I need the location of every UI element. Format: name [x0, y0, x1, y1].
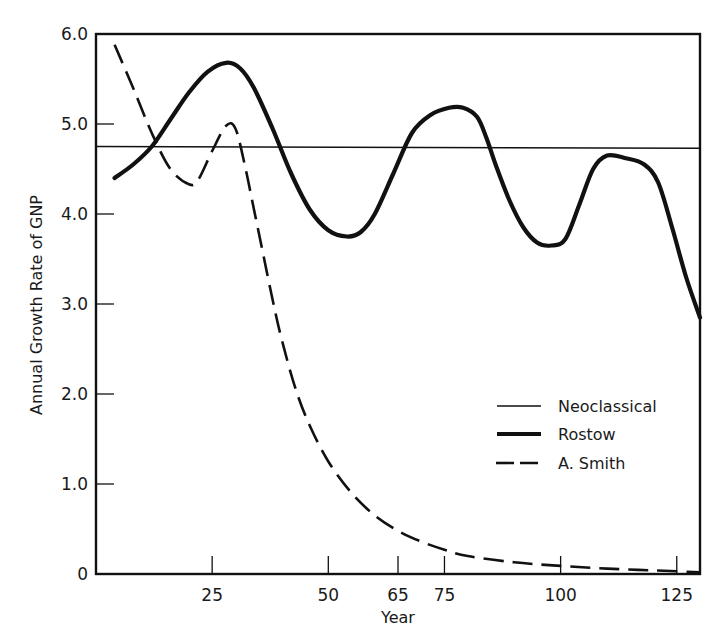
- y-tick-label: 2.0: [61, 384, 88, 404]
- x-tick-label: 65: [387, 585, 409, 605]
- plot-frame: [96, 34, 700, 574]
- legend: Neoclassical Rostow A. Smith: [496, 397, 657, 473]
- series-rostow: [115, 63, 700, 318]
- line-chart: 01.02.03.04.05.06.0 25506575100125 Annua…: [0, 0, 721, 643]
- y-tick-label: 4.0: [61, 204, 88, 224]
- x-tick-label: 100: [544, 585, 576, 605]
- y-tick-label: 5.0: [61, 114, 88, 134]
- y-axis-title: Annual Growth Rate of GNP: [27, 195, 46, 415]
- x-axis: 25506575100125: [201, 556, 693, 605]
- series-a-smith: [115, 45, 700, 572]
- legend-item-a-smith: A. Smith: [496, 454, 625, 473]
- y-tick-label: 6.0: [61, 24, 88, 44]
- x-tick-label: 25: [201, 585, 223, 605]
- x-tick-label: 75: [434, 585, 456, 605]
- x-tick-label: 125: [661, 585, 693, 605]
- x-axis-title: Year: [380, 608, 415, 627]
- legend-label: Neoclassical: [558, 397, 657, 416]
- legend-item-rostow: Rostow: [497, 425, 616, 444]
- y-tick-label: 3.0: [61, 294, 88, 314]
- y-tick-label: 0: [77, 564, 88, 584]
- legend-label: A. Smith: [558, 454, 625, 473]
- x-tick-label: 50: [317, 585, 339, 605]
- y-tick-label: 1.0: [61, 474, 88, 494]
- y-axis: 01.02.03.04.05.06.0: [61, 24, 114, 584]
- series-neoclassical: [96, 147, 700, 149]
- legend-item-neoclassical: Neoclassical: [497, 397, 657, 416]
- legend-label: Rostow: [558, 425, 616, 444]
- series-layer: [96, 45, 700, 572]
- plot-border: [96, 34, 700, 574]
